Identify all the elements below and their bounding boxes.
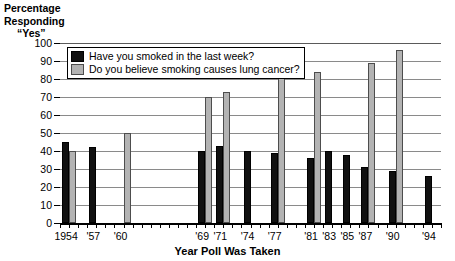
bar-belief-1971 (223, 92, 230, 223)
x-tick-1988 (378, 223, 379, 228)
y-tick-label-70: 70 (26, 92, 52, 102)
bar-smoked-1987 (361, 167, 368, 223)
legend-label-smoked: Have you smoked in the last week? (89, 51, 254, 62)
x-tick-label-1957: '57 (86, 230, 100, 242)
x-tick-1992 (414, 223, 415, 228)
x-tick-label-1987: '87 (359, 230, 373, 242)
x-tick-1985 (350, 223, 351, 228)
bar-smoked-1974 (244, 151, 251, 223)
gridline-70 (60, 97, 441, 98)
y-tick-mark-20 (54, 187, 60, 188)
y-axis-title-line-1: Percentage (4, 2, 61, 14)
y-tick-mark-80 (54, 79, 60, 80)
gridline-10 (60, 205, 441, 206)
x-tick-1962 (142, 223, 143, 228)
bar-belief-1954 (69, 151, 76, 223)
bar-smoked-1969 (198, 151, 205, 223)
x-tick-label-1977: '77 (268, 230, 282, 242)
x-tick-1959 (114, 223, 115, 228)
x-tick-1955 (78, 223, 79, 228)
y-tick-mark-90 (54, 61, 60, 62)
legend-swatch-black-icon (71, 51, 84, 62)
x-tick-1967 (187, 223, 188, 228)
y-tick-label-10: 10 (26, 200, 52, 210)
y-tick-label-20: 20 (26, 182, 52, 192)
bar-smoked-1983 (325, 151, 332, 223)
y-axis-title: Percentage Responding “Yes” (4, 2, 65, 40)
bar-belief-1969 (205, 97, 212, 223)
x-tick-1982 (323, 223, 324, 228)
x-tick-1958 (105, 223, 106, 228)
x-tick-1970 (214, 223, 215, 228)
y-axis-title-line-2: Responding (4, 15, 65, 28)
y-tick-mark-50 (54, 133, 60, 134)
x-tick-label-1990: '90 (386, 230, 400, 242)
bar-belief-1981 (314, 72, 321, 223)
x-tick-1993 (423, 223, 424, 228)
x-tick-1977 (278, 223, 279, 228)
x-tick-1960 (124, 223, 125, 228)
x-tick-label-1969: '69 (195, 230, 209, 242)
x-tick-1973 (241, 223, 242, 228)
x-tick-label-1981: '81 (304, 230, 318, 242)
x-tick-label-1960: '60 (114, 230, 128, 242)
bar-belief-1977 (278, 75, 285, 223)
y-tick-mark-40 (54, 151, 60, 152)
y-tick-label-100: 100 (26, 38, 52, 48)
x-tick-1995 (441, 223, 442, 228)
legend-swatch-gray-icon (71, 64, 84, 75)
gridline-30 (60, 169, 441, 170)
x-tick-1978 (287, 223, 288, 228)
y-tick-label-90: 90 (26, 56, 52, 66)
x-tick-1971 (223, 223, 224, 228)
x-tick-1965 (169, 223, 170, 228)
x-tick-1994 (432, 223, 433, 228)
x-tick-1991 (405, 223, 406, 228)
bar-smoked-1977 (271, 153, 278, 223)
gridline-40 (60, 151, 441, 152)
x-tick-1989 (387, 223, 388, 228)
legend-label-belief: Do you believe smoking causes lung cance… (89, 64, 300, 75)
x-tick-1961 (133, 223, 134, 228)
y-tick-mark-30 (54, 169, 60, 170)
x-tick-label-1983: '83 (322, 230, 336, 242)
x-tick-1957 (96, 223, 97, 228)
x-tick-1983 (332, 223, 333, 228)
bar-belief-1987 (368, 63, 375, 223)
x-tick-1986 (359, 223, 360, 228)
y-tick-label-30: 30 (26, 164, 52, 174)
x-tick-1976 (269, 223, 270, 228)
x-tick-1974 (251, 223, 252, 228)
x-tick-1972 (232, 223, 233, 228)
gridline-20 (60, 187, 441, 188)
gridline-50 (60, 133, 441, 134)
x-tick-1979 (296, 223, 297, 228)
bar-belief-1960 (124, 133, 131, 223)
x-tick-label-1985: '85 (340, 230, 354, 242)
x-tick-1981 (314, 223, 315, 228)
y-tick-mark-10 (54, 205, 60, 206)
y-tick-label-0: 0 (26, 218, 52, 228)
y-tick-label-80: 80 (26, 74, 52, 84)
x-axis-labels: 1954'57'60'69'71'74'77'81'83'85'87'90'94 (0, 230, 455, 244)
bar-smoked-1971 (216, 146, 223, 223)
x-tick-1963 (151, 223, 152, 228)
x-tick-1953 (60, 223, 61, 228)
y-tick-label-50: 50 (26, 128, 52, 138)
legend-entry-smoked: Have you smoked in the last week? (71, 50, 300, 63)
bar-belief-1990 (396, 50, 403, 223)
x-tick-1969 (205, 223, 206, 228)
x-tick-label-1971: '71 (213, 230, 227, 242)
x-tick-label-1954: 1954 (54, 230, 77, 242)
bar-smoked-1981 (307, 158, 314, 223)
x-tick-label-1974: '74 (241, 230, 255, 242)
bar-smoked-1985 (343, 155, 350, 223)
x-tick-label-1994: '94 (422, 230, 436, 242)
x-tick-1980 (305, 223, 306, 228)
x-tick-1954 (69, 223, 70, 228)
x-axis-ticks (60, 223, 441, 229)
x-tick-1966 (178, 223, 179, 228)
legend-entry-belief: Do you believe smoking causes lung cance… (71, 63, 300, 76)
y-tick-label-40: 40 (26, 146, 52, 156)
x-tick-1956 (87, 223, 88, 228)
